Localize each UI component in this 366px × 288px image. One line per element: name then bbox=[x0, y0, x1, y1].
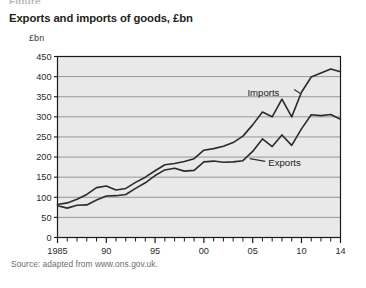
y-tick-label: 200 bbox=[36, 152, 51, 162]
x-tick-label: 10 bbox=[296, 246, 306, 256]
line-chart: ImportsExports 0501001502002503003504004… bbox=[0, 0, 366, 288]
x-tick-label: 95 bbox=[150, 246, 160, 256]
x-tick-label: 00 bbox=[199, 246, 209, 256]
series-label-imports: Imports bbox=[247, 87, 279, 98]
y-tick-label: 150 bbox=[36, 172, 51, 182]
y-axis-tick-labels: 050100150200250300350400450 bbox=[36, 52, 51, 243]
source-note: Source: adapted from www.ons.gov.uk. bbox=[11, 259, 158, 269]
x-tick-label: 90 bbox=[101, 246, 111, 256]
x-axis-tick-labels: 1985909500051014 bbox=[47, 246, 345, 256]
y-tick-label: 300 bbox=[36, 112, 51, 122]
y-tick-label: 0 bbox=[46, 233, 51, 243]
y-tick-label: 250 bbox=[36, 132, 51, 142]
y-tick-label: 100 bbox=[36, 193, 51, 203]
x-axis-ticks bbox=[58, 238, 341, 244]
x-tick-label: 1985 bbox=[47, 246, 67, 256]
chart-plot-area: ImportsExports 0501001502002503003504004… bbox=[0, 0, 366, 288]
figure-container: Figure Exports and imports of goods, £bn… bbox=[0, 0, 366, 288]
x-tick-label: 14 bbox=[335, 246, 345, 256]
x-tick-label: 05 bbox=[248, 246, 258, 256]
series-label-exports: Exports bbox=[268, 157, 301, 168]
y-tick-label: 450 bbox=[36, 52, 51, 62]
y-tick-label: 350 bbox=[36, 92, 51, 102]
y-tick-label: 50 bbox=[41, 213, 51, 223]
y-tick-label: 400 bbox=[36, 72, 51, 82]
plot-background bbox=[58, 57, 341, 238]
